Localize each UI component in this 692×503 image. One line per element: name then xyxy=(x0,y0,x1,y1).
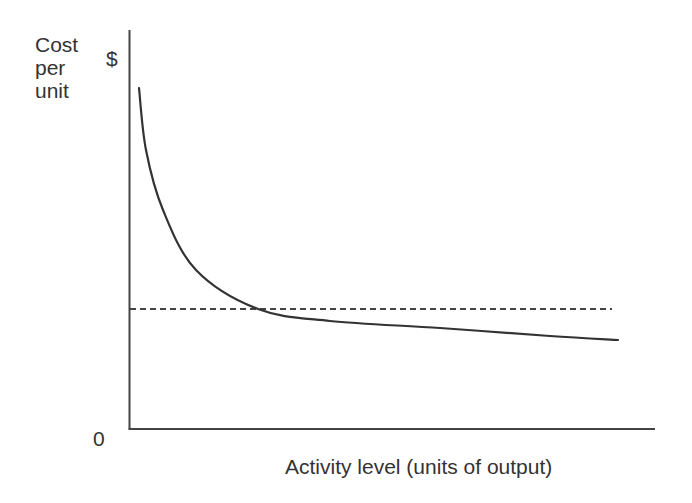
chart-plot-area xyxy=(0,0,692,503)
average-fixed-cost-curve xyxy=(139,88,618,340)
